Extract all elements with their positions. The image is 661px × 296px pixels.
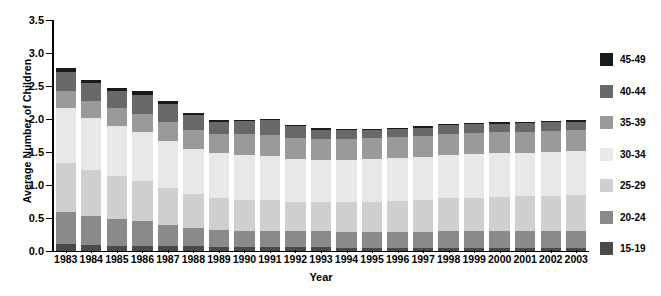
bar-segment[interactable] (362, 232, 382, 248)
bar-segment[interactable] (260, 156, 280, 200)
bar-segment[interactable] (56, 212, 76, 244)
bar-segment[interactable] (285, 231, 305, 248)
bar-segment[interactable] (311, 202, 331, 231)
bar-segment[interactable] (311, 160, 331, 202)
bar-segment[interactable] (81, 101, 101, 118)
bar-group[interactable] (489, 20, 509, 251)
legend-item[interactable]: 20-24 (600, 202, 661, 234)
bar-segment[interactable] (413, 128, 433, 137)
bar-segment[interactable] (311, 139, 331, 160)
bar-segment[interactable] (464, 124, 484, 133)
bar-segment[interactable] (56, 163, 76, 213)
bar-segment[interactable] (132, 181, 152, 221)
bar-segment[interactable] (81, 118, 101, 170)
bar-segment[interactable] (362, 130, 382, 138)
bar-segment[interactable] (362, 138, 382, 159)
bar-group[interactable] (311, 20, 331, 251)
bar-segment[interactable] (566, 130, 586, 151)
bar-segment[interactable] (464, 231, 484, 248)
legend-item[interactable]: 35-39 (600, 107, 661, 139)
bar-segment[interactable] (336, 232, 356, 248)
bar-segment[interactable] (81, 216, 101, 245)
bar-segment[interactable] (132, 95, 152, 115)
legend-item[interactable]: 15-19 (600, 233, 661, 265)
bar-segment[interactable] (209, 198, 229, 230)
bar-segment[interactable] (260, 231, 280, 248)
bar-segment[interactable] (515, 231, 535, 248)
bar-segment[interactable] (362, 159, 382, 201)
bar-segment[interactable] (132, 132, 152, 181)
bar-segment[interactable] (107, 108, 127, 125)
bar-segment[interactable] (413, 232, 433, 248)
bar-segment[interactable] (387, 201, 407, 232)
bar-segment[interactable] (260, 135, 280, 156)
bar-segment[interactable] (515, 196, 535, 231)
bar-segment[interactable] (438, 198, 458, 231)
bar-segment[interactable] (107, 219, 127, 245)
bar-segment[interactable] (209, 122, 229, 134)
bar-segment[interactable] (209, 230, 229, 247)
bar-segment[interactable] (541, 122, 561, 131)
bar-segment[interactable] (158, 104, 178, 122)
bar-segment[interactable] (413, 200, 433, 232)
bar-segment[interactable] (464, 198, 484, 232)
bar-segment[interactable] (260, 200, 280, 230)
bar-segment[interactable] (489, 132, 509, 153)
legend-item[interactable]: 45-49 (600, 44, 661, 76)
bar-group[interactable] (464, 20, 484, 251)
legend-item[interactable]: 40-44 (600, 76, 661, 108)
bar-segment[interactable] (285, 126, 305, 137)
bar-segment[interactable] (387, 158, 407, 201)
bar-segment[interactable] (260, 120, 280, 135)
bar-segment[interactable] (438, 125, 458, 134)
bar-segment[interactable] (464, 133, 484, 154)
bar-segment[interactable] (566, 231, 586, 248)
bar-segment[interactable] (132, 114, 152, 132)
bar-segment[interactable] (183, 194, 203, 228)
bar-group[interactable] (336, 20, 356, 251)
bar-segment[interactable] (107, 176, 127, 220)
bar-segment[interactable] (209, 153, 229, 198)
bar-segment[interactable] (336, 202, 356, 232)
bar-group[interactable] (234, 20, 254, 251)
bar-segment[interactable] (387, 137, 407, 158)
bar-segment[interactable] (56, 72, 76, 91)
bar-segment[interactable] (489, 197, 509, 231)
bar-segment[interactable] (56, 91, 76, 108)
bar-segment[interactable] (107, 126, 127, 176)
bar-segment[interactable] (183, 130, 203, 149)
bar-segment[interactable] (183, 149, 203, 195)
bar-segment[interactable] (311, 130, 331, 139)
bar-group[interactable] (413, 20, 433, 251)
legend-item[interactable]: 25-29 (600, 170, 661, 202)
bar-segment[interactable] (81, 83, 101, 101)
bar-group[interactable] (387, 20, 407, 251)
bar-segment[interactable] (234, 121, 254, 134)
bar-segment[interactable] (387, 232, 407, 248)
bar-segment[interactable] (234, 231, 254, 248)
bar-segment[interactable] (285, 138, 305, 159)
bar-segment[interactable] (336, 139, 356, 160)
bar-segment[interactable] (56, 108, 76, 163)
bar-segment[interactable] (438, 134, 458, 155)
bar-segment[interactable] (413, 136, 433, 157)
bar-group[interactable] (107, 20, 127, 251)
bar-segment[interactable] (438, 231, 458, 248)
bar-segment[interactable] (158, 122, 178, 140)
bar-group[interactable] (81, 20, 101, 251)
bar-segment[interactable] (566, 151, 586, 195)
bar-segment[interactable] (541, 131, 561, 152)
bar-group[interactable] (515, 20, 535, 251)
bar-segment[interactable] (566, 195, 586, 231)
bar-segment[interactable] (158, 141, 178, 189)
bar-segment[interactable] (438, 155, 458, 199)
bar-group[interactable] (56, 20, 76, 251)
legend-item[interactable]: 30-34 (600, 139, 661, 171)
bar-group[interactable] (541, 20, 561, 251)
bar-segment[interactable] (541, 231, 561, 248)
bar-segment[interactable] (81, 170, 101, 216)
bar-segment[interactable] (541, 196, 561, 232)
bar-group[interactable] (438, 20, 458, 251)
bar-segment[interactable] (336, 160, 356, 202)
bar-group[interactable] (566, 20, 586, 251)
